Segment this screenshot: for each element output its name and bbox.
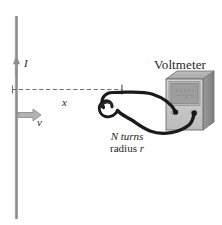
lead-plug-right [192, 111, 197, 116]
lead-plug-left [173, 109, 178, 114]
velocity-label: v [37, 116, 42, 128]
current-label: I [24, 57, 28, 69]
coil-radius-line: radius r [96, 142, 158, 154]
coil-radius-prefix: radius [110, 142, 140, 154]
voltmeter-display [171, 84, 198, 104]
coil-radius-symbol: r [140, 142, 144, 154]
current-carrying-wire [15, 16, 16, 219]
figure-canvas [0, 0, 222, 225]
voltmeter-label: Voltmeter [154, 58, 206, 73]
current-direction-arrow [13, 56, 20, 77]
physics-figure: I v x Voltmeter N turns radius r [0, 0, 222, 225]
distance-label: x [62, 96, 67, 108]
coil-label: N turns radius r [96, 130, 158, 155]
coil-turns-symbol: N turns [111, 130, 144, 142]
coil-turns-line: N turns [96, 130, 158, 142]
